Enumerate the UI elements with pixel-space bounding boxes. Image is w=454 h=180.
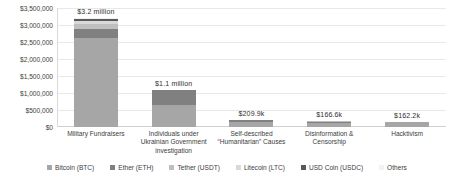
y-axis-tick-label: $500,000 <box>25 107 53 114</box>
legend-item[interactable]: Ether (ETH) <box>110 164 153 171</box>
legend-swatch-icon <box>236 165 241 170</box>
legend-label: USD Coin (USDC) <box>309 164 363 171</box>
legend-item[interactable]: Others <box>379 164 407 171</box>
chart-container: $3,500,000$3,000,000$2,500,000$2,000,000… <box>0 0 454 180</box>
bar-group[interactable]: $162.2k <box>368 8 446 127</box>
y-axis-tick-label: $3,500,000 <box>20 5 53 12</box>
stacked-bar[interactable] <box>74 18 118 127</box>
bar-segment[interactable] <box>152 90 196 106</box>
legend-item[interactable]: Tether (USDT) <box>169 164 220 171</box>
legend-swatch-icon <box>169 165 174 170</box>
y-axis-tick-label: $2,500,000 <box>20 39 53 46</box>
bar-segment[interactable] <box>385 122 429 127</box>
y-axis-tick-label: $1,500,000 <box>20 73 53 80</box>
y-axis-tick-label: $0 <box>46 124 53 131</box>
bar-segment[interactable] <box>229 122 273 127</box>
bar-segment[interactable] <box>74 38 118 127</box>
legend-label: Bitcoin (BTC) <box>55 164 94 171</box>
legend-swatch-icon <box>301 165 306 170</box>
bar-segment[interactable] <box>307 123 351 127</box>
bar-group[interactable]: $1.1 million <box>135 8 213 127</box>
legend-item[interactable]: Bitcoin (BTC) <box>47 164 94 171</box>
bar-value-label: $162.2k <box>394 112 420 119</box>
legend-label: Litecoin (LTC) <box>244 164 285 171</box>
stacked-bar[interactable] <box>229 120 273 127</box>
stacked-bar[interactable] <box>385 122 429 127</box>
bar-value-label: $1.1 million <box>155 80 192 87</box>
x-axis-category-label: Military Fundraisers <box>57 130 135 155</box>
plot-area: $3.2 million$1.1 million$209.9k$166.6k$1… <box>57 8 446 127</box>
legend-swatch-icon <box>47 165 52 170</box>
stacked-bar[interactable] <box>307 121 351 127</box>
legend-label: Ether (ETH) <box>118 164 153 171</box>
bar-segment[interactable] <box>152 105 196 127</box>
legend-item[interactable]: Litecoin (LTC) <box>236 164 285 171</box>
bar-group[interactable]: $166.6k <box>290 8 368 127</box>
bar-group[interactable]: $3.2 million <box>57 8 135 127</box>
legend-swatch-icon <box>379 165 384 170</box>
x-axis-category-label: Hacktivism <box>368 130 446 155</box>
bar-value-label: $3.2 million <box>77 8 114 15</box>
legend-label: Tether (USDT) <box>177 164 220 171</box>
chart-legend: Bitcoin (BTC)Ether (ETH)Tether (USDT)Lit… <box>0 164 454 171</box>
bar-value-label: $166.6k <box>316 111 342 118</box>
bar-segment[interactable] <box>74 29 118 38</box>
x-axis-category-label: Disinformation & Censorship <box>290 130 368 155</box>
y-axis-tick-label: $3,000,000 <box>20 22 53 29</box>
bar-group[interactable]: $209.9k <box>213 8 291 127</box>
legend-swatch-icon <box>110 165 115 170</box>
y-axis-tick-label: $1,000,000 <box>20 90 53 97</box>
legend-item[interactable]: USD Coin (USDC) <box>301 164 363 171</box>
x-axis-category-label: Self-described “Humanitarian” Causes <box>213 130 291 155</box>
y-axis-tick-label: $2,000,000 <box>20 56 53 63</box>
x-axis-category-label: Individuals under Ukrainian Government i… <box>135 130 213 155</box>
legend-label: Others <box>387 164 407 171</box>
bar-value-label: $209.9k <box>239 110 265 117</box>
stacked-bar[interactable] <box>152 90 196 127</box>
bar-series-group: $3.2 million$1.1 million$209.9k$166.6k$1… <box>57 8 446 127</box>
x-axis-labels: Military FundraisersIndividuals under Uk… <box>57 130 446 155</box>
y-axis: $3,500,000$3,000,000$2,500,000$2,000,000… <box>0 8 53 127</box>
